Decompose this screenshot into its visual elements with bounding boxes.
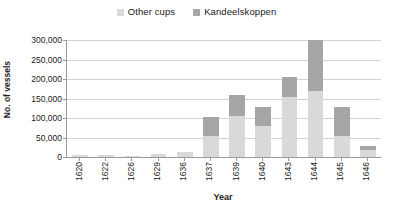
x-axis-tick-slot: 1644: [302, 158, 328, 192]
bar-stack-1622: [98, 155, 114, 157]
y-axis-tick-label: 50,000: [12, 133, 62, 142]
x-axis-tick-slot: 1645: [328, 158, 354, 192]
bar-segment-other-cups: [177, 152, 193, 157]
x-axis-tick-label: 1629: [153, 162, 162, 181]
x-axis-tick-label: 1636: [179, 162, 188, 181]
bar-stack-1646: [360, 146, 376, 157]
x-axis-tick-mark: [315, 158, 316, 161]
bar-slot: [198, 40, 224, 157]
x-axis-tick-slot: 1620: [66, 158, 92, 192]
bar-slot: [329, 40, 355, 157]
bar-stack-1636: [177, 152, 193, 157]
x-axis-tick-mark: [158, 158, 159, 161]
x-axis-tick-label: 1620: [75, 162, 84, 181]
bar-slot: [119, 40, 145, 157]
x-axis-tick-label: 1643: [284, 162, 293, 181]
legend-label-kandeelskoppen: Kandeelskoppen: [204, 7, 276, 17]
legend-entry-other-cups: Other cups: [117, 7, 175, 17]
x-axis-tick-mark: [288, 158, 289, 161]
bar-segment-kandeelskoppen: [229, 95, 245, 116]
bar-segment-other-cups: [360, 150, 376, 157]
bar-stack-1640: [255, 107, 271, 157]
bar-segment-kandeelskoppen: [308, 40, 324, 91]
x-axis-tick-label: 1645: [336, 162, 345, 181]
x-axis-tick-slot: 1640: [249, 158, 275, 192]
bar-slot: [224, 40, 250, 157]
y-axis-tick-label: 0: [12, 153, 62, 162]
y-axis-tick-label: 200,000: [12, 75, 62, 84]
x-axis-tick-slot: 1622: [92, 158, 118, 192]
bar-slot: [146, 40, 172, 157]
x-axis-tick-mark: [79, 158, 80, 161]
y-axis-tick-label: 250,000: [12, 55, 62, 64]
x-axis-tick-labels: 1620162216261629163616371639164016431644…: [66, 158, 380, 192]
x-axis-tick-slot: 1629: [145, 158, 171, 192]
bar-stack-1639: [229, 95, 245, 157]
bar-segment-other-cups: [125, 156, 141, 157]
bar-segment-kandeelskoppen: [255, 107, 271, 126]
bar-segment-other-cups: [151, 154, 167, 157]
legend-label-other-cups: Other cups: [128, 7, 175, 17]
bar-segment-other-cups: [308, 91, 324, 157]
y-axis-tick-label: 150,000: [12, 94, 62, 103]
bar-segment-other-cups: [229, 116, 245, 157]
bar-segment-other-cups: [98, 155, 114, 157]
bar-slot: [303, 40, 329, 157]
bars-layer: [67, 40, 381, 157]
x-axis-tick-mark: [367, 158, 368, 161]
x-axis-tick-label: 1639: [232, 162, 241, 181]
bar-slot: [250, 40, 276, 157]
bar-segment-other-cups: [72, 155, 88, 157]
x-axis-tick-mark: [210, 158, 211, 161]
x-axis-tick-slot: 1646: [354, 158, 380, 192]
bar-stack-1644: [308, 40, 324, 157]
x-axis-tick-label: 1622: [101, 162, 110, 181]
bar-slot: [276, 40, 302, 157]
bar-stack-1643: [282, 77, 298, 157]
bar-slot: [93, 40, 119, 157]
bar-segment-other-cups: [334, 136, 350, 157]
x-axis-tick-mark: [341, 158, 342, 161]
bar-segment-kandeelskoppen: [282, 77, 298, 97]
bar-segment-other-cups: [282, 97, 298, 157]
bar-stack-1637: [203, 117, 219, 157]
legend-swatch-kandeelskoppen: [193, 9, 200, 16]
x-axis-tick-mark: [105, 158, 106, 161]
bar-slot: [355, 40, 381, 157]
bar-segment-other-cups: [255, 126, 271, 157]
x-axis-tick-mark: [262, 158, 263, 161]
x-axis-tick-label: 1646: [362, 162, 371, 181]
bar-segment-other-cups: [203, 136, 219, 157]
x-axis-tick-label: 1626: [127, 162, 136, 181]
x-axis-tick-label: 1640: [258, 162, 267, 181]
y-axis-tick-label: 300,000: [12, 36, 62, 45]
bar-slot: [67, 40, 93, 157]
x-axis-tick-slot: 1636: [171, 158, 197, 192]
bar-stack-1629: [151, 154, 167, 157]
bar-segment-kandeelskoppen: [203, 117, 219, 135]
y-axis-tick-label: 100,000: [12, 114, 62, 123]
plot-area: [66, 40, 381, 158]
x-axis-tick-label: 1644: [310, 162, 319, 181]
bar-slot: [172, 40, 198, 157]
x-axis-tick-slot: 1626: [118, 158, 144, 192]
bar-segment-kandeelskoppen: [334, 107, 350, 135]
bar-chart: Other cups Kandeelskoppen No. of vessels…: [0, 0, 393, 209]
legend-entry-kandeelskoppen: Kandeelskoppen: [193, 7, 276, 17]
bar-stack-1620: [72, 155, 88, 157]
x-axis-title: Year: [66, 192, 380, 202]
x-axis-tick-mark: [236, 158, 237, 161]
legend-swatch-other-cups: [117, 9, 124, 16]
x-axis-tick-slot: 1637: [197, 158, 223, 192]
x-axis-tick-slot: 1643: [275, 158, 301, 192]
bar-stack-1645: [334, 107, 350, 157]
x-axis-tick-label: 1637: [205, 162, 214, 181]
x-axis-tick-mark: [131, 158, 132, 161]
bar-stack-1626: [125, 156, 141, 157]
x-axis-tick-slot: 1639: [223, 158, 249, 192]
chart-legend: Other cups Kandeelskoppen: [0, 7, 393, 17]
x-axis-tick-mark: [184, 158, 185, 161]
y-axis-tick-labels: 300,000250,000200,000150,000100,00050,00…: [12, 40, 62, 157]
